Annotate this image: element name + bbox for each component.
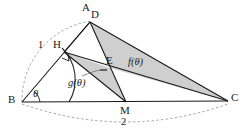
- vertex-label-d: D: [91, 9, 99, 20]
- geometry-figure: A D H B C M E 1 2 θ f(θ) g(θ): [0, 0, 249, 136]
- length-label-bh: 1: [38, 40, 43, 51]
- right-angle-marker-icon: [62, 54, 69, 61]
- vertex-label-a: A: [82, 2, 90, 13]
- vertex-label-b: B: [8, 94, 15, 105]
- length-label-bc: 2: [121, 117, 126, 128]
- region-label-g-theta: g(θ): [68, 78, 85, 89]
- segment-h-d: [64, 22, 90, 52]
- vertex-label-e: E: [106, 55, 113, 66]
- vertex-label-c: C: [231, 92, 238, 103]
- region-label-f-theta: f(θ): [128, 57, 143, 68]
- angle-label-theta: θ: [33, 89, 38, 100]
- vertex-label-m: M: [120, 105, 130, 116]
- vertex-label-h: H: [53, 39, 61, 50]
